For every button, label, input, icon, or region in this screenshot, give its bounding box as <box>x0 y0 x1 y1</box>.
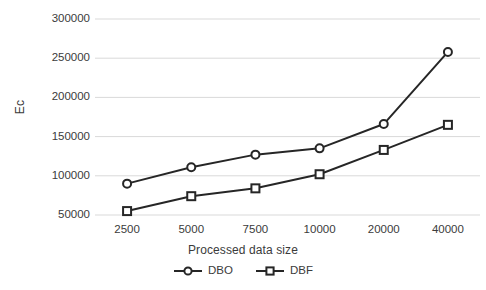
legend-item-dbf[interactable]: DBF <box>255 265 313 277</box>
data-point-dbf <box>251 184 259 192</box>
series-line-dbo <box>127 52 448 184</box>
data-point-dbo <box>380 120 388 128</box>
gridlines <box>95 19 480 215</box>
data-point-dbo <box>444 48 452 56</box>
data-point-dbo <box>251 151 259 159</box>
x-axis-tick-label: 7500 <box>243 224 269 236</box>
legend-label: DBO <box>208 265 233 277</box>
x-axis-tick-label: 2500 <box>114 224 140 236</box>
x-axis-tick-label: 20000 <box>368 224 400 236</box>
x-axis-tick-label: 40000 <box>432 224 464 236</box>
data-point-dbo <box>316 144 324 152</box>
series-lines <box>127 52 448 211</box>
x-axis-title: Processed data size <box>0 243 486 257</box>
data-point-dbf <box>316 170 324 178</box>
legend-item-dbo[interactable]: DBO <box>173 265 233 277</box>
series-line-dbf <box>127 125 448 211</box>
line-chart: 50000100000150000200000250000300000 Ec 2… <box>0 0 486 290</box>
data-point-dbo <box>123 180 131 188</box>
data-point-dbf <box>444 121 452 129</box>
series-markers <box>123 48 452 215</box>
square-marker-icon <box>255 265 285 277</box>
legend-label: DBF <box>290 265 313 277</box>
x-axis-tick-label: 5000 <box>178 224 204 236</box>
circle-marker-icon <box>173 265 203 277</box>
data-point-dbf <box>187 192 195 200</box>
data-point-dbf <box>380 146 388 154</box>
chart-legend: DBODBF <box>0 265 486 277</box>
x-axis-tick-label: 10000 <box>304 224 336 236</box>
data-point-dbo <box>187 163 195 171</box>
data-point-dbf <box>123 207 131 215</box>
